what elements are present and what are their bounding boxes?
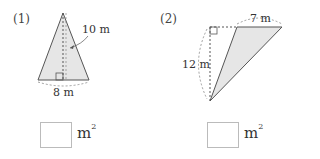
- triangle-1: 10 m 8 m: [38, 13, 110, 99]
- unit-text-2: m: [244, 124, 258, 142]
- unit-label-1: m2: [77, 124, 96, 142]
- right-angle-mark-2: [210, 27, 217, 34]
- base-label-2: 7 m: [250, 12, 271, 25]
- base-label-1: 8 m: [53, 86, 74, 99]
- height-label-1: 10 m: [82, 23, 110, 36]
- problem-2-number: (2): [160, 12, 177, 26]
- answer-box-1[interactable]: [40, 122, 72, 148]
- height-label-2: 12 m: [182, 58, 210, 71]
- triangle-2: 12 m 7 m: [182, 12, 282, 101]
- unit-exponent-1: 2: [91, 122, 96, 131]
- unit-exponent-2: 2: [258, 122, 263, 131]
- unit-label-2: m2: [244, 124, 263, 142]
- unit-text-1: m: [77, 124, 91, 142]
- answer-box-2[interactable]: [207, 122, 239, 148]
